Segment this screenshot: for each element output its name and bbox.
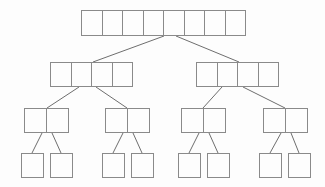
tree-node-cell[interactable] — [163, 10, 185, 36]
tree-node-cell[interactable] — [259, 153, 282, 178]
tree-node[interactable] — [21, 153, 44, 178]
tree-node-cell[interactable] — [24, 108, 47, 133]
tree-node-cell[interactable] — [203, 108, 226, 133]
tree-node-cell[interactable] — [184, 10, 206, 36]
tree-node-cell[interactable] — [102, 10, 124, 36]
tree-node-cell[interactable] — [181, 108, 204, 133]
tree-node-cell[interactable] — [204, 10, 226, 36]
tree-node-cell[interactable] — [131, 153, 154, 178]
tree-node-cell[interactable] — [143, 10, 165, 36]
tree-node[interactable] — [50, 62, 133, 87]
tree-node-cell[interactable] — [21, 153, 44, 178]
tree-node[interactable] — [196, 62, 279, 87]
tree-node[interactable] — [131, 153, 154, 178]
tree-node-cell[interactable] — [71, 62, 93, 87]
tree-node-cell[interactable] — [237, 62, 259, 87]
tree-node-cell[interactable] — [46, 108, 69, 133]
tree-diagram — [0, 0, 325, 187]
tree-node-cell[interactable] — [122, 10, 144, 36]
tree-node[interactable] — [181, 108, 226, 133]
tree-node-cell[interactable] — [91, 62, 113, 87]
tree-node-cell[interactable] — [127, 108, 150, 133]
tree-node[interactable] — [259, 153, 282, 178]
tree-node-cell[interactable] — [217, 62, 239, 87]
tree-node[interactable] — [105, 108, 150, 133]
tree-node-cell[interactable] — [207, 153, 230, 178]
tree-node-cell[interactable] — [285, 108, 308, 133]
tree-node-cell[interactable] — [225, 10, 247, 36]
tree-node[interactable] — [24, 108, 69, 133]
tree-node-cell[interactable] — [112, 62, 134, 87]
tree-node[interactable] — [263, 108, 308, 133]
node-layer — [0, 0, 325, 187]
tree-node-cell[interactable] — [105, 108, 128, 133]
tree-node-cell[interactable] — [102, 153, 125, 178]
tree-node[interactable] — [288, 153, 311, 178]
tree-node-cell[interactable] — [258, 62, 280, 87]
tree-node[interactable] — [81, 10, 246, 36]
tree-node[interactable] — [102, 153, 125, 178]
tree-node-cell[interactable] — [50, 153, 73, 178]
tree-node-cell[interactable] — [263, 108, 286, 133]
tree-node[interactable] — [207, 153, 230, 178]
tree-node-cell[interactable] — [288, 153, 311, 178]
tree-node-cell[interactable] — [178, 153, 201, 178]
tree-node-cell[interactable] — [81, 10, 103, 36]
tree-node[interactable] — [50, 153, 73, 178]
tree-node-cell[interactable] — [50, 62, 72, 87]
tree-node[interactable] — [178, 153, 201, 178]
tree-node-cell[interactable] — [196, 62, 218, 87]
